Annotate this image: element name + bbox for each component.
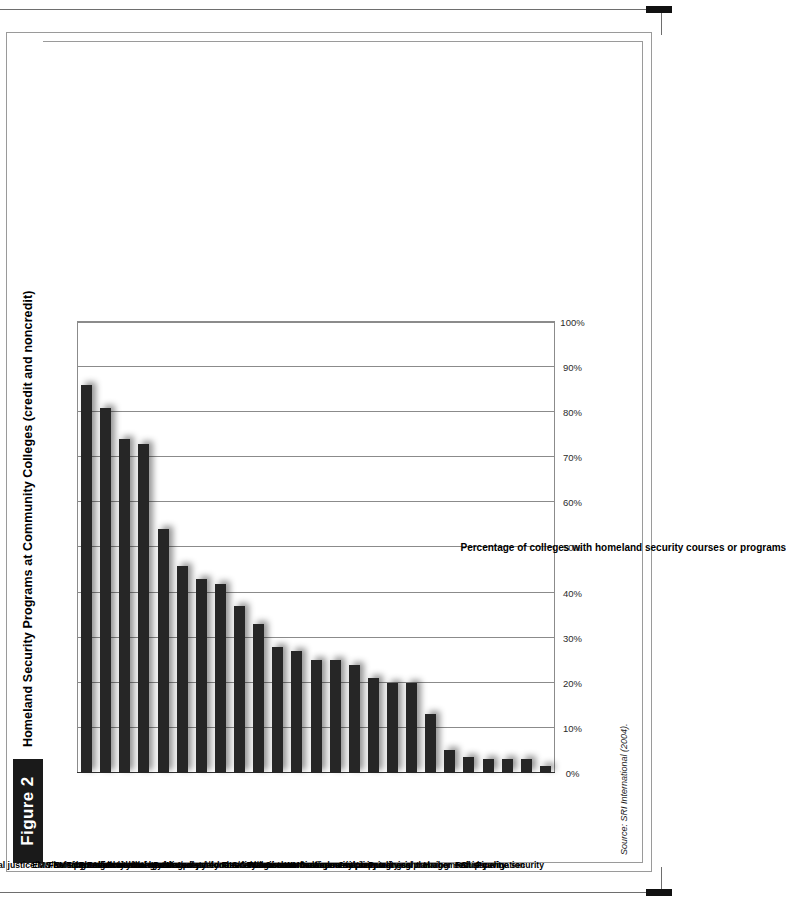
- chart-bar-row: [272, 322, 283, 773]
- chart-bar-row: [138, 322, 149, 773]
- crop-mark-top-block: [646, 6, 672, 13]
- figure-header: Homeland Security Programs at Community …: [13, 41, 43, 863]
- chart-bar: [177, 566, 188, 773]
- chart-category-label: Pipeline security: [476, 860, 544, 870]
- chart-bar-row: [349, 322, 360, 773]
- figure-container: Homeland Security Programs at Community …: [6, 32, 652, 872]
- crop-mark-bottom-line: [0, 892, 646, 893]
- chart-bar: [483, 759, 494, 773]
- chart-axis-title: Percentage of colleges with homeland sec…: [461, 542, 741, 553]
- chart-tick-label: 30%: [557, 632, 589, 643]
- chart-bar-row: [100, 322, 111, 773]
- chart-bar: [272, 647, 283, 773]
- chart-bar-row: [177, 322, 188, 773]
- chart-bar-row: [311, 322, 322, 773]
- chart-bar: [502, 759, 513, 773]
- crop-mark-top-tick: [661, 13, 662, 35]
- chart-bar: [387, 683, 398, 773]
- chart-bar: [311, 660, 322, 773]
- chart-tick-label: 80%: [557, 407, 589, 418]
- chart-bar: [81, 385, 92, 773]
- chart-bar: [349, 665, 360, 773]
- chart-category-labels: NursingCriminal justice/law enforcementE…: [77, 773, 555, 869]
- chart-bar: [234, 606, 245, 773]
- chart-bar: [138, 444, 149, 773]
- chart-bar-row: [330, 322, 341, 773]
- chart-bar-row: [81, 322, 92, 773]
- chart-bar: [253, 624, 264, 773]
- chart-tick-label: 0%: [557, 768, 589, 779]
- figure-header-title-area: Homeland Security Programs at Community …: [13, 41, 43, 759]
- chart-bar: [158, 529, 169, 773]
- chart-tick-label: 60%: [557, 497, 589, 508]
- chart-bar-row: [215, 322, 226, 773]
- chart-bar: [368, 678, 379, 773]
- figure-source-note: Source: SRI International (2004).: [619, 723, 629, 855]
- chart-bar-row: [368, 322, 379, 773]
- chart-bar: [291, 651, 302, 773]
- chart-bar: [330, 660, 341, 773]
- chart-bar: [444, 750, 455, 773]
- figure-number-badge: Figure 2: [13, 759, 43, 863]
- chart-bar: [463, 757, 474, 773]
- chart-bar: [406, 683, 417, 773]
- chart-tick-label: 40%: [557, 587, 589, 598]
- chart-bar-row: [234, 322, 245, 773]
- chart-bar-row: [387, 322, 398, 773]
- chart-tick-label: 100%: [557, 317, 589, 328]
- figure-title: Homeland Security Programs at Community …: [21, 291, 35, 760]
- chart-bar-row: [406, 322, 417, 773]
- chart-bar-row: [253, 322, 264, 773]
- chart-bar: [540, 766, 551, 773]
- chart-bar-row: [119, 322, 130, 773]
- chart-bar: [119, 439, 130, 773]
- chart-bar-row: [444, 322, 455, 773]
- crop-mark-bottom-block: [646, 889, 672, 896]
- chart-bar-row: [425, 322, 436, 773]
- chart-bar: [100, 408, 111, 773]
- chart-tick-label: 70%: [557, 452, 589, 463]
- chart-bar: [215, 584, 226, 773]
- chart-bar: [425, 714, 436, 773]
- chart-bar: [196, 579, 207, 773]
- crop-mark-bottom-tick: [661, 867, 662, 889]
- chart-tick-label: 20%: [557, 677, 589, 688]
- chart-bar-row: [196, 322, 207, 773]
- chart-bar-row: [158, 322, 169, 773]
- chart-tick-label: 90%: [557, 362, 589, 373]
- crop-mark-top-line: [0, 9, 646, 10]
- figure-stage: Homeland Security Programs at Community …: [7, 33, 651, 871]
- chart-bar-row: [291, 322, 302, 773]
- chart-tick-label: 10%: [557, 722, 589, 733]
- chart-bar: [521, 759, 532, 773]
